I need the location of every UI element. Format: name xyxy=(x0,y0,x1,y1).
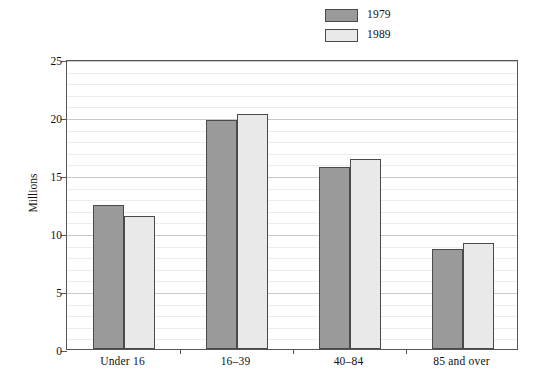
gridline-minor xyxy=(67,84,517,85)
x-axis-label: 85 and over xyxy=(433,355,490,367)
x-axis-labels: Under 1616–3940–8485 and over xyxy=(66,355,518,375)
x-axis-label: Under 16 xyxy=(100,355,145,367)
x-tick-mark xyxy=(293,349,294,354)
gridline-minor xyxy=(67,107,517,108)
chart-legend: 19791989 xyxy=(325,8,391,42)
y-axis-title: Millions xyxy=(27,173,39,212)
y-tick-label: 25 xyxy=(51,53,63,69)
gridline-minor xyxy=(67,212,517,213)
gridline-minor xyxy=(67,165,517,166)
gridline-minor xyxy=(67,200,517,201)
bar xyxy=(432,249,463,349)
bar xyxy=(319,167,350,349)
x-axis-label: 16–39 xyxy=(221,355,251,367)
legend-item: 1989 xyxy=(325,28,391,42)
bar-chart: 19791989 Millions 0510152025 Under 1616–… xyxy=(0,0,540,385)
y-tick-label: 0 xyxy=(56,343,62,359)
gridline-major xyxy=(67,119,517,120)
y-tick-label: 10 xyxy=(51,227,63,243)
x-axis-label: 40–84 xyxy=(334,355,364,367)
plot-inner xyxy=(67,61,517,349)
gridline-minor xyxy=(67,131,517,132)
gridline-minor xyxy=(67,73,517,74)
bar xyxy=(350,159,381,349)
y-tick-label: 5 xyxy=(56,285,62,301)
x-tick-mark xyxy=(406,349,407,354)
bar xyxy=(463,243,494,349)
bar xyxy=(237,114,268,349)
bar xyxy=(206,120,237,349)
gridline-major xyxy=(67,177,517,178)
bar xyxy=(124,216,155,349)
y-tick-label: 20 xyxy=(51,111,63,127)
legend-item: 1979 xyxy=(325,8,391,22)
gridline-minor xyxy=(67,142,517,143)
x-tick-mark xyxy=(180,349,181,354)
gridline-minor xyxy=(67,96,517,97)
y-tick-label: 15 xyxy=(51,169,63,185)
gridline-minor xyxy=(67,154,517,155)
gridline-major xyxy=(67,61,517,62)
legend-label: 1989 xyxy=(367,29,391,41)
bar xyxy=(93,205,124,349)
legend-label: 1979 xyxy=(367,9,391,21)
legend-swatch-icon xyxy=(325,29,358,42)
plot-area: 0510152025 xyxy=(66,60,518,350)
legend-swatch-icon xyxy=(325,9,358,22)
gridline-minor xyxy=(67,189,517,190)
